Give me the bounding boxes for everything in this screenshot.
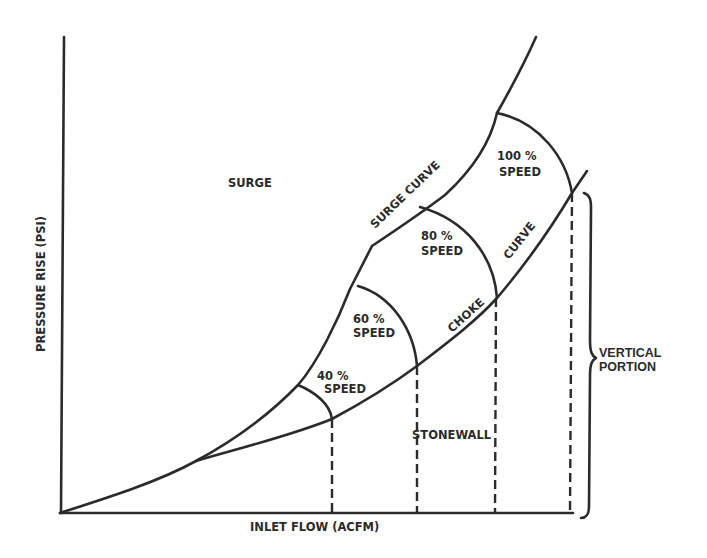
compressor-map-diagram: PRESSURE RISE (PSI) INLET FLOW (ACFM) SU… [0, 0, 707, 558]
speed-60-percent: 60 % [353, 312, 385, 326]
speed-60-label: SPEED [353, 326, 395, 340]
surge-region-label: SURGE [228, 176, 272, 190]
stonewall-line-100 [570, 193, 572, 513]
surge-curve-label: SURGE CURVE [367, 158, 442, 231]
speed-100-percent: 100 % [497, 149, 537, 163]
vertical-portion-label-2: PORTION [599, 360, 656, 374]
y-axis-label: PRESSURE RISE (PSI) [34, 216, 48, 352]
speed-100-label: SPEED [499, 165, 541, 179]
y-axis [61, 37, 64, 513]
stonewall-region-label: STONEWALL [412, 428, 492, 442]
stonewall-line-80 [495, 298, 496, 513]
vertical-portion-brace [581, 193, 596, 518]
choke-curve-label-2: CURVE [500, 219, 538, 262]
speed-40-percent: 40 % [317, 369, 349, 383]
speed-40-label: SPEED [324, 382, 366, 396]
speed-80-percent: 80 % [421, 229, 453, 243]
x-axis-label: INLET FLOW (ACFM) [250, 520, 379, 534]
speed-80-label: SPEED [421, 244, 463, 258]
vertical-portion-label-1: VERTICAL [599, 346, 662, 360]
